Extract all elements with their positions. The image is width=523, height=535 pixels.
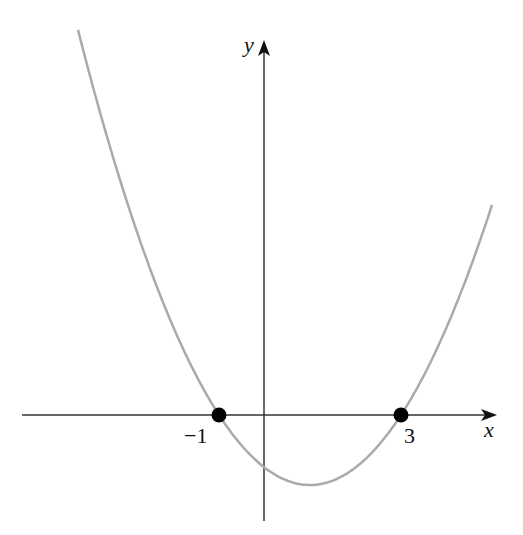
root-label-right: 3 [404,423,415,448]
root-point-left [212,408,227,423]
root-point-right [394,408,409,423]
parabola-curve [78,30,492,485]
root-label-left: −1 [184,423,207,448]
y-axis-label: y [242,32,254,57]
x-axis-label: x [483,417,494,442]
parabola-graph: y x −1 3 [0,0,523,535]
